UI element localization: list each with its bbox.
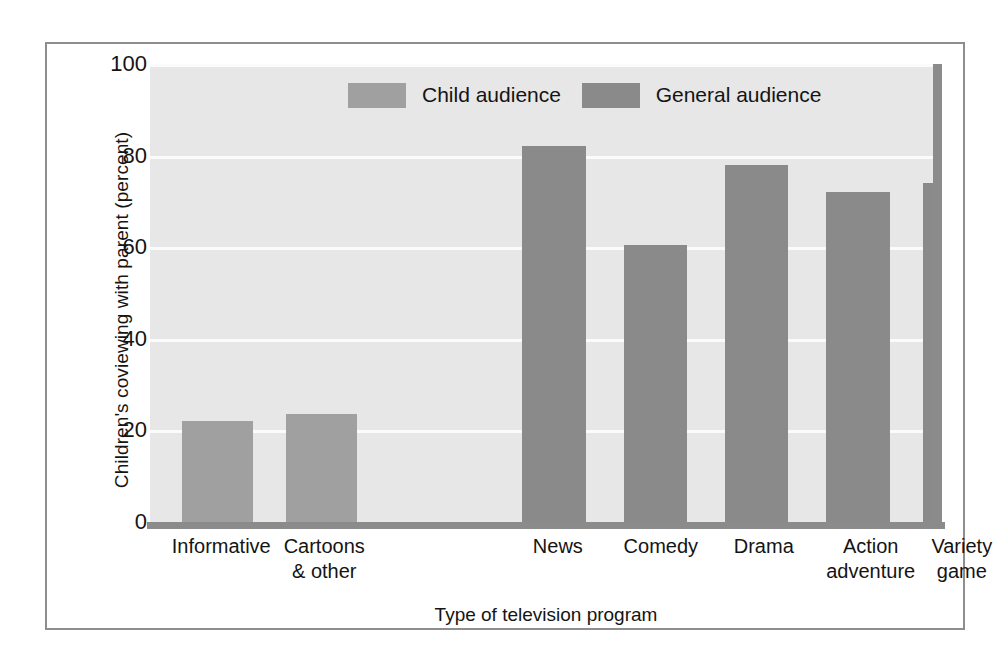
x-tick-label: Cartoons& other [237,534,411,584]
legend-swatch [582,83,640,108]
y-tick-label: 40 [101,328,147,350]
y-tick-label: 60 [101,236,147,258]
y-tick-label: 20 [101,419,147,441]
legend-label: General audience [656,83,822,107]
figure-canvas: Children's coviewing with parent (percen… [0,0,997,660]
bar [182,421,253,522]
x-tick-label-line: game [879,559,997,584]
plot-right-edge-strip [933,64,942,522]
x-tick-label-line: Variety [879,534,997,559]
x-tick-label-line: & other [237,559,411,584]
legend-entry: General audience [582,80,822,110]
plot-area [150,64,942,522]
legend-swatch [348,83,406,108]
bar-group [150,64,942,522]
bar [286,414,357,522]
y-tick-label: 100 [101,53,147,75]
legend-entry: Child audience [348,80,561,110]
legend: Child audienceGeneral audience [150,80,942,114]
bar [725,165,788,522]
x-axis-tick-labels: InformativeCartoons& otherNewsComedyDram… [150,534,942,604]
bar [826,192,889,522]
x-axis-title: Type of television program [150,604,942,626]
bar [624,245,687,522]
y-tick-label: 80 [101,145,147,167]
figure-frame: Children's coviewing with parent (percen… [45,42,965,630]
legend-label: Child audience [422,83,561,107]
y-tick-label: 0 [101,511,147,533]
bar [522,146,585,522]
x-tick-label: Varietygame [879,534,997,584]
x-tick-label-line: Cartoons [237,534,411,559]
x-axis-line [147,522,945,529]
